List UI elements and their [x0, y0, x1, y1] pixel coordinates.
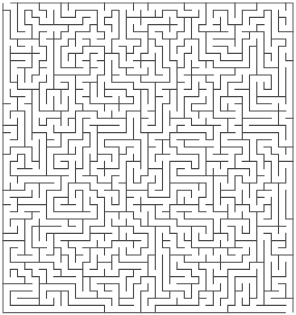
maze-canvas	[0, 0, 296, 315]
maze-inner-walls	[3, 3, 293, 313]
maze-walls	[0, 0, 296, 315]
